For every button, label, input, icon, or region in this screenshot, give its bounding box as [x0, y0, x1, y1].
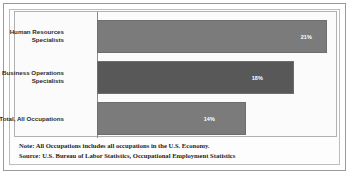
footnotes: Note: All Occupations includes all occup…	[19, 141, 329, 160]
bar-total-all-occupations[interactable]: 14%	[97, 102, 246, 135]
category-label-human-resources-specialists: Human Resources Specialists	[0, 28, 64, 45]
category-label-business-operations-specialists: Business Operations Specialists	[0, 69, 64, 86]
bar-row: Business Operations Specialists 18%	[15, 61, 336, 94]
footnote-note: Note: All Occupations includes all occup…	[19, 141, 329, 151]
bar-value-label-human-resources-specialists: 21%	[301, 34, 312, 40]
bar-value-label-business-operations-specialists: 18%	[252, 75, 263, 81]
chart-figure: Human Resources Specialists 21% Business…	[0, 0, 350, 179]
bar-row: Total, All Occupations 14%	[15, 102, 336, 135]
bar-value-label-total-all-occupations: 14%	[204, 116, 215, 122]
category-label-total-all-occupations: Total, All Occupations	[0, 114, 64, 123]
bar-human-resources-specialists[interactable]: 21%	[97, 20, 327, 53]
footnote-source: Source: U.S. Bureau of Labor Statistics,…	[19, 151, 329, 161]
bar-business-operations-specialists[interactable]: 18%	[97, 61, 294, 94]
plot-area: Human Resources Specialists 21% Business…	[14, 11, 337, 137]
bar-row: Human Resources Specialists 21%	[15, 20, 336, 53]
